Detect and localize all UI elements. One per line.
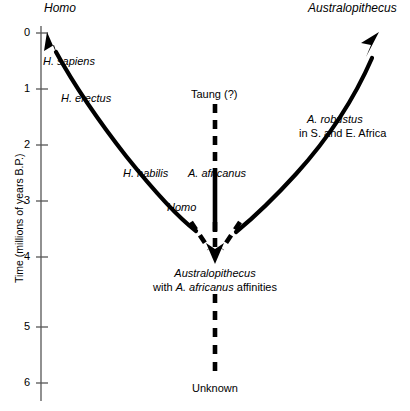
root-affinity-prefix: with [153, 281, 176, 293]
robustus-lineage-arrowhead [361, 32, 379, 57]
label-a-africanus: A. africanus [188, 167, 246, 180]
label-unknown: Unknown [165, 382, 265, 395]
y-tick-label-0: 0 [16, 26, 30, 38]
root-affinity-suffix: affinities [234, 281, 277, 293]
label-h-habilis: H. habilis [123, 167, 168, 180]
y-axis-title: Time (millions of years B.P.) [13, 153, 25, 283]
top-label-homo: Homo [44, 2, 76, 15]
evolution-cladogram-figure: 0 1 2 3 4 5 6 Time (millions of years B.… [0, 0, 410, 411]
y-tick-label-6: 6 [16, 376, 30, 388]
label-a-robustus-region: in S. and E. Africa [299, 127, 386, 140]
root-converge-right-dashed [222, 222, 240, 249]
label-h-erectus: H. erectus [61, 92, 111, 105]
robustus-lineage-branch [236, 58, 372, 232]
label-a-robustus: A. robustus [307, 113, 363, 126]
y-tick-label-2: 2 [16, 138, 30, 150]
label-homo-branch: Homo [167, 201, 196, 214]
label-h-sapiens: H. sapiens [43, 55, 95, 68]
root-converge-left-dashed [191, 222, 209, 249]
label-taung: Taung (?) [191, 88, 237, 101]
top-label-australopithecus: Australopithecus [308, 2, 397, 15]
label-root-affinities: with A. africanus affinities [105, 281, 325, 294]
y-tick-label-5: 5 [16, 320, 30, 332]
y-axis-ticks [36, 33, 48, 383]
y-tick-label-1: 1 [16, 82, 30, 94]
root-affinity-species: A. africanus [176, 281, 234, 293]
label-root-genus: Australopithecus [115, 267, 315, 280]
